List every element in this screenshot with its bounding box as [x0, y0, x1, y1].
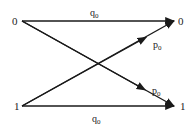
channel-diagram: 0 1 0 1 q0 p0 p0 q0: [0, 0, 196, 130]
label-p0-upper: p0: [153, 39, 162, 52]
label-q0-top: q0: [90, 7, 99, 20]
node-right-0: 0: [178, 15, 184, 27]
label-p0-lower: p0: [152, 85, 161, 98]
node-left-0: 0: [12, 15, 18, 27]
node-left-1: 1: [14, 100, 20, 112]
node-right-1: 1: [180, 100, 186, 112]
label-q0-bottom: q0: [92, 113, 101, 126]
